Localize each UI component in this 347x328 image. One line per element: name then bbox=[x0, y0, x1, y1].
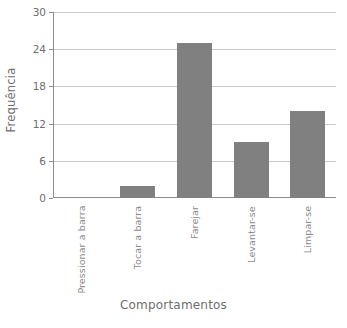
bars-layer bbox=[53, 12, 336, 198]
x-tick-label-text: Pressionar a barra bbox=[76, 205, 87, 293]
x-tick-label-1: Tocar a barra bbox=[110, 200, 167, 292]
y-tick-label-12: 12 bbox=[33, 118, 46, 130]
y-tick-mark-30 bbox=[49, 12, 53, 13]
x-axis-tick-labels: Pressionar a barraTocar a barraFarejarLe… bbox=[53, 200, 336, 292]
x-tick-label-text: Levantar-se bbox=[245, 206, 256, 263]
y-tick-label-6: 6 bbox=[39, 155, 46, 167]
x-tick-label-text: Tocar a barra bbox=[133, 205, 144, 268]
y-tick-label-0: 0 bbox=[39, 192, 46, 204]
y-axis-title-text: Frequência bbox=[4, 68, 18, 133]
y-tick-mark-12 bbox=[49, 124, 53, 125]
x-tick-label-3: Levantar-se bbox=[223, 200, 280, 292]
y-axis-title: Frequência bbox=[0, 0, 22, 200]
x-tick-label-text: Farejar bbox=[189, 205, 200, 238]
plot-area bbox=[53, 12, 336, 198]
y-tick-mark-0 bbox=[49, 198, 53, 199]
bar bbox=[290, 111, 325, 198]
bar bbox=[177, 43, 212, 198]
x-tick-label-2: Farejar bbox=[166, 200, 223, 292]
x-tick-label-text: Limpar-se bbox=[302, 205, 313, 252]
y-tick-label-24: 24 bbox=[33, 43, 46, 55]
bar bbox=[234, 142, 269, 198]
y-tick-mark-18 bbox=[49, 86, 53, 87]
bar bbox=[120, 186, 155, 198]
y-tick-mark-24 bbox=[49, 49, 53, 50]
y-tick-label-30: 30 bbox=[33, 6, 46, 18]
bar-chart-figure: Frequência 0612182430 Pressionar a barra… bbox=[0, 0, 347, 328]
y-tick-mark-6 bbox=[49, 161, 53, 162]
y-axis-tick-labels: 0612182430 bbox=[22, 12, 50, 198]
x-tick-label-4: Limpar-se bbox=[279, 200, 336, 292]
y-tick-label-18: 18 bbox=[33, 80, 46, 92]
x-tick-label-0: Pressionar a barra bbox=[53, 200, 110, 292]
x-axis-title: Comportamentos bbox=[0, 298, 347, 312]
